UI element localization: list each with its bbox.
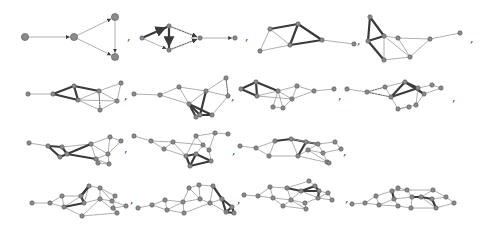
graph-node [374,194,378,198]
sequence-separator: , [124,89,128,102]
graph-node [330,198,334,202]
graph-node [290,97,294,101]
graph-node [21,33,28,40]
graph-node [198,197,202,201]
graph-node [163,198,167,202]
graph-node [271,105,275,109]
graph-edge [210,186,213,203]
sequence-separator: , [452,91,456,104]
graph-edge [142,38,166,49]
graph-node [158,93,162,97]
graph-node [320,38,324,42]
graph-node [312,89,316,93]
graph-edge [67,154,96,159]
graph-edge [273,91,278,107]
graph-node [187,102,191,106]
graph-node [111,13,118,20]
graph-node [224,76,228,80]
graph-edge [167,202,183,210]
graph-edge [370,17,384,36]
graph-node [383,85,387,89]
graph-node [365,90,369,94]
graph-node [326,191,330,195]
graph-edge [74,19,111,37]
graph-node [333,140,337,144]
graph-node [98,186,102,190]
graph-node [46,144,50,148]
graph-edge [165,200,183,202]
graph-node [207,148,211,152]
graph-node [204,89,208,93]
graph-node [408,55,412,59]
graph-node [368,15,372,19]
graph-node [382,58,386,62]
graph-edge [134,136,151,141]
graph-node [255,94,259,98]
graph-node [444,195,448,199]
graph-node [352,42,356,46]
graph-edge [179,87,206,91]
graph-12 [30,184,128,218]
graph-node [198,36,202,40]
graph-node [299,189,303,193]
graph-node [276,89,280,93]
graph-edge [257,91,278,96]
graph-node [271,196,275,200]
graph-edge [368,36,384,41]
graph-edge [287,181,309,188]
graph-edge [206,91,228,96]
graph-node [306,148,310,152]
graph-node [111,53,118,60]
graph-node [60,145,64,149]
graph-edge [117,83,121,101]
graph-node [211,184,215,188]
graph-node [226,132,230,136]
graph-node [188,164,192,168]
graph-edge [256,82,278,91]
graph-node [289,198,293,202]
graph-11 [238,137,343,165]
graph-edge [184,203,210,213]
graph-node [79,194,83,198]
graph-edge [292,91,314,99]
graph-node [230,205,234,209]
graph-edge [368,17,370,41]
graph-edge [430,33,460,39]
graph-node [140,36,144,40]
graph-edge [108,137,110,154]
graph-node [132,92,136,96]
graph-edge [368,41,384,60]
graph-node [197,183,201,187]
graph-edge [74,37,111,55]
graph-node [345,87,349,91]
graph-edge [74,86,99,91]
graph-edge [436,203,454,208]
graph-edge [398,38,430,39]
graph-node [254,146,258,150]
graph-edge [283,206,306,209]
graph-node [201,143,205,147]
graph-node [136,206,140,210]
graph-edge [160,87,179,95]
graph-node [30,201,34,205]
sequence-separator: , [357,34,361,47]
graph-node [377,203,381,207]
graph-node [303,201,307,205]
graph-edge [297,86,314,91]
graph-node [281,106,285,110]
graph-node [396,36,400,40]
graph-node [268,27,272,31]
graph-node [439,86,443,90]
graph-node [458,31,462,35]
graph-node [430,83,434,87]
graph-node [296,154,300,158]
graph-node [115,211,119,215]
sequence-separator: , [343,145,347,158]
graph-edge [53,94,78,100]
graph-edge [167,210,184,213]
graph-node [226,94,230,98]
graph-node [210,113,214,117]
graph-node [304,140,308,144]
graph-node [434,206,438,210]
graph-edge [260,29,270,51]
